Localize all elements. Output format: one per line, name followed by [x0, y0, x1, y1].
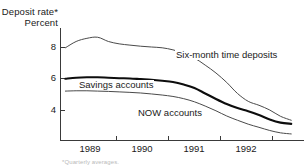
page-title: Deposit rate*: [0, 6, 58, 17]
y-tick-4: [61, 110, 65, 111]
series-label-savings-accounts: Savings accounts: [78, 80, 154, 90]
y-tick-label-4: 4: [36, 105, 56, 115]
x-tick-1989: [116, 136, 117, 141]
x-tick-label-1991: 1991: [174, 144, 214, 154]
x-tick-1991: [220, 136, 221, 141]
x-tick-label-1992: 1992: [226, 144, 266, 154]
x-tick-1990: [168, 136, 169, 141]
x-axis-line: [60, 140, 304, 141]
series-label-six-month-time-deposits: Six-month time deposits: [175, 50, 278, 60]
y-tick-8: [61, 47, 65, 48]
chart-figure: Deposit rate* Percent 8 6 4 1989 1990 19…: [0, 0, 304, 167]
y-axis-line: [60, 28, 61, 140]
x-tick-label-1989: 1989: [70, 144, 110, 154]
y-tick-label-6: 6: [36, 73, 56, 83]
series-label-now-accounts: NOW accounts: [137, 108, 203, 118]
y-tick-6: [61, 78, 65, 79]
axis-unit-label: Percent: [0, 17, 58, 28]
y-tick-label-8: 8: [36, 42, 56, 52]
x-tick-label-1990: 1990: [122, 144, 162, 154]
x-tick-1992: [272, 136, 273, 141]
footnote-text: *Quarterly averages.: [62, 159, 119, 166]
